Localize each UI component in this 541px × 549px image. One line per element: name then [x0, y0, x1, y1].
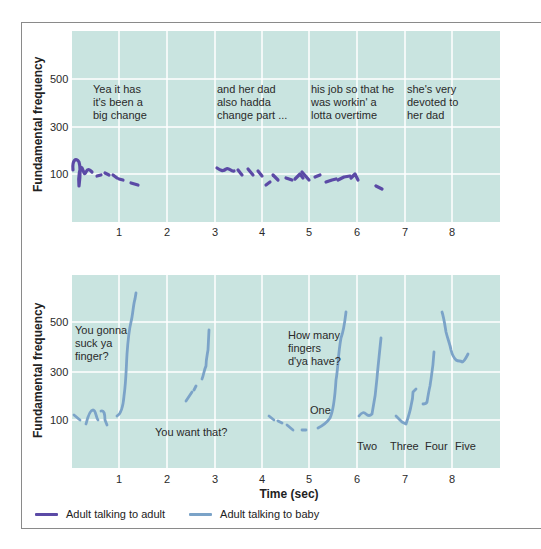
bottom-xtick-4: 4: [259, 473, 265, 485]
bottom-xtick-8: 8: [449, 473, 455, 485]
top-xtick-3: 3: [212, 226, 218, 238]
bottom-ytick-300: 300: [50, 366, 68, 378]
top-ylabel: Fundamental frequency: [31, 56, 45, 192]
top-panel: 500 300 100 1 2 3 4 5 6 7 8 Fundamental …: [31, 31, 500, 238]
annotation-line: You gonna: [75, 324, 128, 336]
top-xtick-6: 6: [354, 226, 360, 238]
legend-label: Adult talking to adult: [66, 508, 165, 520]
annotation-line: it's been a: [93, 96, 144, 108]
annotation-line: big change: [93, 109, 147, 121]
annotation-one: One: [310, 404, 331, 416]
annotation-line: Yea it has: [93, 83, 141, 95]
bottom-panel: 500 300 100 1 2 3 4 5 6 7 8 Time (sec) F…: [31, 275, 500, 501]
top-xtick-7: 7: [402, 226, 408, 238]
annotation-line: finger?: [75, 350, 109, 362]
annotation-line: his job so that he: [311, 83, 394, 95]
bottom-ytick-100: 100: [50, 414, 68, 426]
annotation-line: devoted to: [407, 96, 458, 108]
top-xtick-8: 8: [449, 226, 455, 238]
annotation-line: How many: [288, 329, 340, 341]
annotation-line: and her dad: [217, 83, 276, 95]
annotation-four: Four: [425, 440, 448, 452]
top-ytick-100: 100: [50, 168, 68, 180]
top-ytick-500: 500: [50, 73, 68, 85]
top-ytick-300: 300: [50, 121, 68, 133]
legend: Adult talking to adult Adult talking to …: [35, 508, 319, 520]
bottom-xtick-6: 6: [354, 473, 360, 485]
annotation-line: her dad: [407, 109, 444, 121]
legend-swatch-blue-icon: [189, 513, 212, 516]
top-xtick-5: 5: [306, 226, 312, 238]
top-xtick-1: 1: [116, 226, 122, 238]
annotation-line: lotta overtime: [311, 109, 377, 121]
bottom-xtick-2: 2: [164, 473, 170, 485]
top-xtick-2: 2: [164, 226, 170, 238]
annotation-line: fingers: [288, 342, 322, 354]
annotation-five: Five: [455, 440, 476, 452]
bottom-xtick-7: 7: [402, 473, 408, 485]
bottom-xtick-5: 5: [306, 473, 312, 485]
annotation-you-want-that: You want that?: [155, 426, 227, 438]
legend-swatch-purple-icon: [35, 513, 58, 516]
bottom-ytick-500: 500: [50, 316, 68, 328]
legend-item-adult-to-adult: Adult talking to adult: [35, 508, 165, 520]
legend-label: Adult talking to baby: [220, 508, 319, 520]
annotation-line: d'ya have?: [288, 355, 341, 367]
top-xtick-4: 4: [259, 226, 265, 238]
annotation-three: Three: [390, 440, 419, 452]
annotation-line: change part ...: [217, 109, 287, 121]
annotation-two: Two: [357, 440, 377, 452]
bottom-xtick-3: 3: [212, 473, 218, 485]
bottom-ylabel: Fundamental frequency: [31, 302, 45, 438]
annotation-line: was workin' a: [310, 96, 378, 108]
bottom-xtick-1: 1: [116, 473, 122, 485]
legend-item-adult-to-baby: Adult talking to baby: [189, 508, 319, 520]
annotation-line: suck ya: [75, 337, 113, 349]
bottom-xlabel: Time (sec): [259, 487, 318, 501]
annotation-line: also hadda: [217, 96, 272, 108]
annotation-line: she's very: [407, 83, 457, 95]
